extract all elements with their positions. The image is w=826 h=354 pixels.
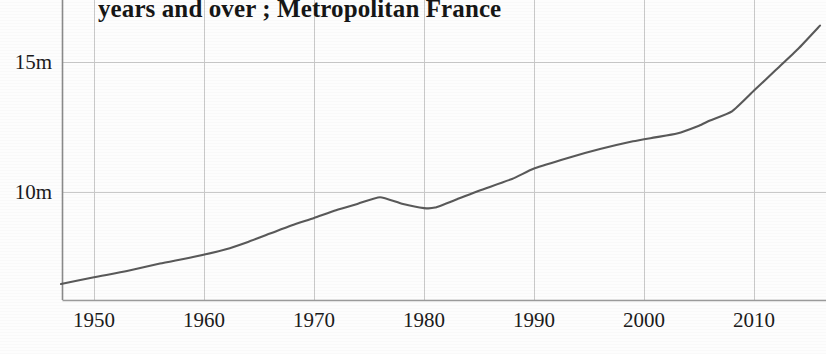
data-series-group: [61, 26, 820, 284]
plot-area: [0, 0, 826, 354]
data-line-population: [61, 26, 820, 284]
chart-container: years and over ; Metropolitan France 15m…: [0, 0, 826, 354]
gridlines: [63, 0, 826, 300]
chart-title: years and over ; Metropolitan France: [98, 0, 718, 30]
axis-lines: [63, 0, 826, 301]
